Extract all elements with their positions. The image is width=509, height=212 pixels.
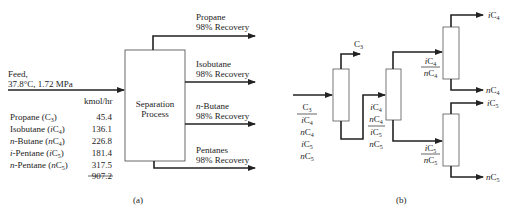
component-isobutane: Isobutane (iC4) — [10, 124, 65, 134]
product-pentanes-recovery: 98% Recovery — [196, 155, 249, 165]
process-label-2: Process — [125, 109, 185, 119]
product-isobutane-recovery: 98% Recovery — [196, 69, 249, 79]
component-n-pentane: n-Pentane (nC5) — [10, 160, 68, 170]
col2-feed-nc4: nC4 — [367, 114, 385, 124]
feed-b-c3: C3 — [297, 102, 317, 112]
flow-isobutane: 136.1 — [86, 124, 112, 134]
column-2 — [386, 69, 401, 120]
product-propane: Propane — [196, 12, 226, 22]
feed-b-nc4: nC4 — [297, 127, 317, 137]
feed-conditions: 37.8°C, 1.72 MPa — [8, 79, 73, 89]
feed-b-ic5: iC5 — [297, 139, 317, 149]
col2-feed-ic5: iC5 — [367, 127, 385, 137]
product-pentanes: Pentanes — [196, 145, 228, 155]
product-isobutane: Isobutane — [196, 59, 231, 69]
flow-total: 907.2 — [86, 171, 112, 181]
column-1 — [333, 69, 349, 121]
col4-top-ic5: iC5 — [487, 98, 499, 108]
flow-lines — [0, 0, 509, 212]
flow-n-butane: 226.8 — [86, 136, 112, 146]
col4-feed-ic5: iC5 — [421, 143, 440, 153]
units-header: kmol/hr — [84, 96, 113, 106]
column-4 — [443, 114, 459, 166]
product-propane-recovery: 98% Recovery — [196, 22, 249, 32]
column-3 — [443, 27, 459, 79]
product-n-butane: n-Butane — [196, 101, 229, 111]
col2-feed-ic4: iC4 — [367, 102, 385, 112]
caption-a: (a) — [133, 195, 143, 205]
product-n-butane-recovery: 98% Recovery — [196, 111, 249, 121]
flow-i-pentane: 181.4 — [86, 148, 112, 158]
flow-n-pentane: 317.5 — [86, 160, 112, 170]
col1-top-c3: C3 — [354, 39, 363, 49]
col4-feed-nc5: nC5 — [421, 155, 440, 165]
caption-b: (b) — [396, 195, 407, 205]
col3-top-ic4: iC4 — [488, 10, 500, 20]
feed-b-ic4: iC4 — [297, 115, 317, 125]
feed-b-nc5: nC5 — [297, 151, 317, 161]
flow-propane: 45.4 — [86, 112, 112, 122]
col4-bottom-nc5: nC5 — [486, 172, 500, 182]
col3-feed-nc4: nC4 — [421, 68, 440, 78]
col2-feed-nc5: nC5 — [367, 139, 385, 149]
propane-outlet-arrow — [153, 36, 255, 50]
component-i-pentane: i-Pentane (iC5) — [10, 148, 64, 158]
component-propane: Propane (C3) — [10, 112, 57, 122]
process-label-1: Separation — [125, 99, 185, 109]
feed-label: Feed, — [8, 69, 28, 79]
col3-feed-ic4: iC4 — [421, 56, 440, 66]
col3-bottom-nc4: nC4 — [486, 85, 500, 95]
component-n-butane: n-Butane (nC4) — [10, 136, 65, 146]
